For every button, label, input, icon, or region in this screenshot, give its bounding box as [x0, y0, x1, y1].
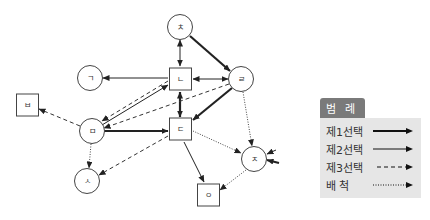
- node-nieun: ㄴ: [170, 68, 192, 90]
- node-bieup: ㅂ: [17, 94, 39, 116]
- nodes: ㅊ ㄱ ㄴ ㄹ ㅂ ㅁ ㄷ ㅈ: [17, 15, 267, 207]
- thick-arrow-icon: [371, 127, 415, 135]
- svg-text:ㅂ: ㅂ: [24, 101, 31, 110]
- node-chieut: ㅊ: [168, 15, 193, 40]
- dotted-arrow-icon: [371, 181, 415, 189]
- legend-item-first: 제1선택: [326, 122, 415, 140]
- node-mieum: ㅁ: [80, 119, 105, 144]
- edge-reject-mieum-siot: [89, 144, 91, 168]
- svg-text:ㅊ: ㅊ: [177, 23, 184, 32]
- node-jieut: ㅈ: [242, 147, 267, 172]
- svg-text:ㅈ: ㅈ: [251, 155, 258, 164]
- edge-reject-rieul-jieut: [243, 92, 252, 146]
- node-giyeok: ㄱ: [78, 66, 103, 91]
- edges: [39, 36, 279, 190]
- svg-text:ㅁ: ㅁ: [89, 127, 96, 136]
- edge-reject-digeut-jieut: [193, 131, 241, 153]
- edge-second-mieum-nieun: [102, 85, 168, 125]
- edge-first-external-jieut: [267, 160, 279, 163]
- legend-label: 제3선택: [326, 159, 363, 175]
- svg-text:ㄴ: ㄴ: [177, 75, 184, 84]
- edge-reject-jieut-ieung: [220, 170, 246, 190]
- node-ieung: ㅇ: [198, 184, 220, 206]
- edge-second-digeut-ieung: [184, 142, 204, 182]
- edge-third-nieun-mieum: [102, 81, 168, 121]
- svg-text:ㅅ: ㅅ: [84, 177, 91, 186]
- node-rieul: ㄹ: [229, 67, 254, 92]
- edge-third-digeut-siot: [99, 136, 168, 175]
- edge-second-external-jieut: [267, 150, 276, 154]
- svg-text:ㄹ: ㄹ: [238, 75, 245, 84]
- legend-label: 제1선택: [326, 123, 363, 139]
- legend-item-second: 제2선택: [326, 140, 415, 158]
- node-digeut: ㄷ: [170, 118, 192, 140]
- edge-first-chieut-rieul: [190, 36, 230, 71]
- edge-first-rieul-digeut: [193, 88, 232, 120]
- thin-arrow-icon: [371, 145, 415, 153]
- edge-third-mieum-bieup: [39, 109, 80, 126]
- legend-label: 제2선택: [326, 141, 363, 157]
- svg-text:ㄷ: ㄷ: [177, 125, 184, 134]
- legend-item-reject: 배 척: [326, 176, 415, 194]
- node-siot: ㅅ: [75, 169, 100, 194]
- svg-text:ㄱ: ㄱ: [87, 74, 94, 83]
- legend-box: 제1선택 제2선택 제3선택 배 척: [320, 118, 421, 198]
- legend-item-third: 제3선택: [326, 158, 415, 176]
- dashed-arrow-icon: [371, 163, 415, 171]
- legend-label: 배 척: [326, 177, 350, 193]
- sociogram-diagram: ㅊ ㄱ ㄴ ㄹ ㅂ ㅁ ㄷ ㅈ: [0, 0, 300, 220]
- legend: 범 례 제1선택 제2선택 제3선택 배 척: [320, 98, 421, 198]
- svg-text:ㅇ: ㅇ: [205, 191, 212, 200]
- legend-title: 범 례: [320, 98, 365, 118]
